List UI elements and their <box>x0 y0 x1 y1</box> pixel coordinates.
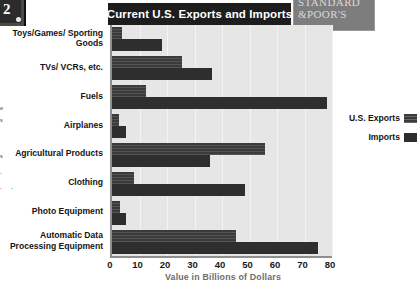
bar-exports <box>112 27 122 39</box>
bar-group <box>112 198 332 227</box>
bar-group <box>112 112 332 141</box>
x-tick-label: 60 <box>270 259 281 270</box>
x-tick-label: 80 <box>325 259 336 270</box>
bar-exports <box>112 56 182 68</box>
category-label: Toys/Games/ Sporting Goods <box>0 28 103 49</box>
chart-title-bar: Current U.S. Exports and Imports <box>108 3 291 25</box>
logo-line-2: &POOR'S <box>294 8 374 20</box>
bar-group <box>112 25 332 54</box>
logo-line-1: STANDARD <box>294 0 374 8</box>
x-tick-label: 0 <box>107 259 112 270</box>
bar-imports <box>112 126 126 138</box>
legend-swatch-icon <box>404 133 417 142</box>
chart-title: Current U.S. Exports and Imports <box>107 8 292 20</box>
bar-exports <box>112 230 236 242</box>
category-label: Clothing <box>0 177 103 188</box>
category-label: Photo Equipment <box>0 206 103 217</box>
bar-imports <box>112 213 126 225</box>
bar-group <box>112 141 332 170</box>
bar-group <box>112 169 332 198</box>
x-tick-label: 50 <box>242 259 253 270</box>
bar-imports <box>112 39 162 51</box>
bar-group <box>112 83 332 112</box>
bar-imports <box>112 97 327 109</box>
chart-legend: U.S. ExportsImports <box>337 113 417 151</box>
legend-item: Imports <box>337 132 417 142</box>
bar-exports <box>112 201 120 213</box>
page-corner-marker: 2 <box>0 0 26 26</box>
x-tick-label: 30 <box>187 259 198 270</box>
bar-exports <box>112 114 119 126</box>
category-label: Agricultural Products <box>0 148 103 159</box>
legend-swatch-icon <box>404 114 417 123</box>
bar-exports <box>112 172 134 184</box>
category-label: Fuels <box>0 91 103 102</box>
legend-label: U.S. Exports <box>349 113 400 123</box>
bar-group <box>112 227 332 256</box>
corner-dot-icon <box>16 17 21 22</box>
plot-area <box>110 25 332 258</box>
bar-imports <box>112 155 210 167</box>
bar-imports <box>112 68 212 80</box>
x-tick-label: 70 <box>297 259 308 270</box>
category-label: Automatic Data Processing Equipment <box>0 230 103 251</box>
x-axis-ticks: 01020304050607080 <box>110 259 336 273</box>
bar-exports <box>112 85 146 97</box>
x-tick-label: 20 <box>160 259 171 270</box>
x-tick-label: 40 <box>215 259 226 270</box>
legend-label: Imports <box>368 132 400 142</box>
category-axis-labels: Toys/Games/ Sporting GoodsTVs/ VCRs, etc… <box>0 25 107 258</box>
chart-container: Current U.S. Exports and Imports STANDAR… <box>103 3 353 273</box>
x-axis-title: Value in Billions of Dollars <box>110 272 336 282</box>
bar-imports <box>112 184 245 196</box>
category-label: Airplanes <box>0 120 103 131</box>
bar-imports <box>112 242 318 254</box>
legend-item: U.S. Exports <box>337 113 417 123</box>
bar-group <box>112 54 332 83</box>
x-tick-label: 10 <box>132 259 143 270</box>
gridline <box>332 25 333 256</box>
bar-exports <box>112 143 265 155</box>
category-label: TVs/ VCRs, etc. <box>0 62 103 73</box>
page-number: 2 <box>3 1 11 18</box>
